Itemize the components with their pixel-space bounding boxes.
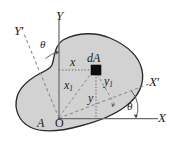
y-prime-axis-label: Y′ xyxy=(14,24,24,37)
x-distance-label: x xyxy=(70,56,75,68)
x-prime-axis-letter: X xyxy=(149,74,157,89)
element-dA-label: dA xyxy=(87,52,100,64)
theta-bottom-label: θ xyxy=(127,101,132,112)
y-axis-label: Y xyxy=(56,9,63,22)
x-prime-mark: ′ xyxy=(157,74,160,89)
element-dA-square xyxy=(91,65,101,75)
diagram-canvas xyxy=(0,0,170,160)
area-label: A xyxy=(37,117,44,129)
x1-subscript: 1 xyxy=(69,84,73,93)
theta-top-label: θ xyxy=(40,39,45,50)
y-prime-mark: ′ xyxy=(21,23,24,38)
y-distance-label: y xyxy=(88,92,93,104)
figure-rotated-axes-diagram: Y Y′ X X′ θ θ dA x y x1 y1 A O xyxy=(0,0,170,160)
x-axis-label: X xyxy=(158,111,166,124)
y1-distance-label: y1 xyxy=(104,75,113,87)
x-prime-axis-label: X′ xyxy=(149,75,160,88)
origin-label: O xyxy=(55,117,64,129)
theta-arc-bottom-arrowhead xyxy=(134,115,138,118)
y1-subscript: 1 xyxy=(109,80,113,89)
x1-distance-label: x1 xyxy=(64,79,73,91)
area-region-shape xyxy=(16,34,143,131)
